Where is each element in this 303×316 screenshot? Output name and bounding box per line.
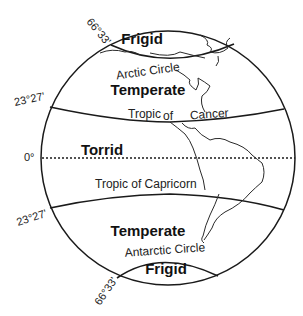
label-arctic-latitude: 66°33' — [84, 16, 113, 47]
coastlines — [100, 35, 264, 243]
zone-label-south-frigid: Frigid — [145, 260, 187, 277]
label-tropic-of-cancer-2: of — [163, 109, 174, 123]
label-antarctic-latitude: 66°33' — [92, 275, 120, 307]
zone-label-north-frigid: Frigid — [121, 30, 163, 47]
tropic-of-capricorn-line — [50, 194, 284, 210]
label-tropic-of-capricorn: Tropic of Capricorn — [95, 177, 197, 191]
climate-zones-diagram: Frigid Temperate Torrid Temperate Frigid… — [0, 0, 303, 316]
zone-label-south-temperate: Temperate — [111, 222, 186, 239]
label-tropic-of-cancer-1: Tropic — [128, 107, 161, 121]
label-tropic-of-cancer-3: Cancer — [189, 106, 229, 123]
zone-label-north-temperate: Temperate — [111, 81, 186, 98]
zone-label-torrid: Torrid — [81, 141, 123, 158]
label-capricorn-latitude: 23°27' — [15, 207, 48, 228]
label-equator-latitude: 0° — [24, 151, 35, 163]
label-antarctic-circle: Antarctic Circle — [124, 240, 206, 260]
label-arctic-circle: Arctic Circle — [115, 60, 181, 83]
label-cancer-latitude: 23°27' — [13, 90, 46, 108]
